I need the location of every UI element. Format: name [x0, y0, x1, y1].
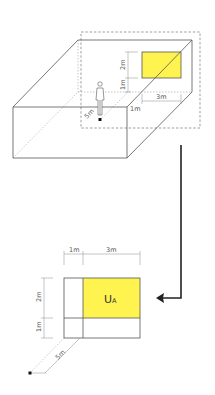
label-target-offset-side: 1m: [130, 105, 140, 113]
label-target-height: 2m: [119, 60, 127, 70]
label-viewing-distance: 5m: [83, 107, 96, 120]
box-front-face: [13, 107, 127, 158]
plan-label-bottom-height: 1m: [35, 322, 43, 332]
label-target-width: 3m: [156, 93, 166, 101]
perspective-view: 2m 1m 3m 1m 5m: [13, 32, 200, 158]
plan-viewer-position-marker: [29, 372, 32, 375]
floor-diagonal-dashed-edge: [13, 92, 78, 158]
box-bottom-right-edge: [127, 92, 192, 158]
viewer-sightline: [100, 92, 128, 120]
target-panel: [142, 52, 181, 78]
diagram-canvas: 2m 1m 3m 1m 5m UA: [0, 0, 215, 395]
connector-arrow: [156, 145, 181, 303]
plan-label-target-width: 3m: [106, 246, 116, 254]
box-top-left-edge: [13, 40, 78, 107]
plan-label-left-width: 1m: [69, 246, 79, 254]
person-figure: [96, 82, 104, 115]
viewer-position-marker: [99, 118, 102, 121]
plan-label-target-height: 2m: [35, 292, 43, 302]
plan-view: UA 1m 3m 2m 1m 5m: [29, 246, 141, 375]
label-target-offset-height: 1m: [119, 80, 127, 90]
plan-label-viewing-distance: 5m: [54, 348, 67, 361]
arrowhead-icon: [156, 293, 164, 303]
